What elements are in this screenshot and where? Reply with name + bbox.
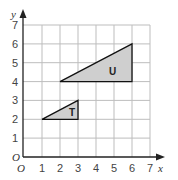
origin-label-x: O: [17, 162, 25, 174]
y-tick: 4: [12, 76, 18, 88]
y-axis-arrow-icon: [20, 9, 27, 18]
y-tick: 6: [12, 38, 18, 50]
x-tick: 6: [129, 162, 135, 174]
y-tick: 2: [12, 113, 18, 125]
x-tick: 2: [57, 162, 63, 174]
label-u: U: [109, 66, 116, 77]
y-tick: 7: [12, 19, 18, 31]
x-tick: 7: [147, 162, 153, 174]
x-tick-labels: 1 2 3 4 5 6 7: [39, 162, 153, 174]
x-tick: 5: [111, 162, 117, 174]
x-axis-arrow-icon: [156, 154, 165, 161]
label-t: T: [69, 107, 75, 118]
x-tick: 1: [39, 162, 45, 174]
coordinate-diagram: y x O O 1 2 3 4 5 6 7 1 2 3 4 5 6 7 T U: [0, 0, 178, 180]
x-tick: 3: [75, 162, 81, 174]
axes: [23, 14, 160, 157]
y-tick-labels: 1 2 3 4 5 6 7: [12, 19, 18, 144]
y-tick: 3: [12, 94, 18, 106]
y-tick: 1: [12, 132, 18, 144]
x-axis-label: x: [157, 162, 163, 174]
x-tick: 4: [93, 162, 99, 174]
y-tick: 5: [12, 57, 18, 69]
